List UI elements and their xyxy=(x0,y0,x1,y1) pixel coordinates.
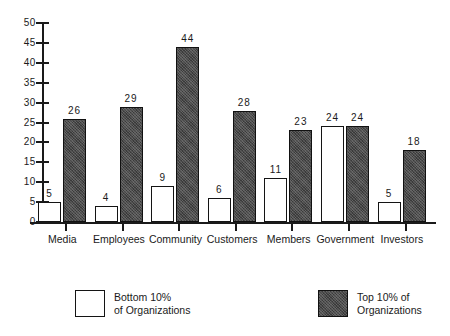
y-axis-tick xyxy=(36,141,49,143)
bar-value-label: 11 xyxy=(258,165,293,175)
bar-value-label: 6 xyxy=(202,185,237,195)
y-axis-tick-label: 45 xyxy=(10,38,36,48)
y-axis-tick xyxy=(36,181,49,183)
legend-label-top10-line1: Top 10% of xyxy=(357,291,422,304)
bar-top10 xyxy=(63,119,86,222)
legend-label-bottom10-line2: of Organizations xyxy=(114,304,190,317)
y-axis-tick xyxy=(36,22,49,24)
y-axis-tick-label: 50 xyxy=(10,18,36,28)
legend-label-top10-line2: Organizations xyxy=(357,304,422,317)
bar-value-label: 9 xyxy=(145,173,180,183)
y-axis-tick xyxy=(36,161,49,163)
chart-legend: Bottom 10% of Organizations Top 10% of O… xyxy=(0,276,450,336)
bar-value-label: 26 xyxy=(57,106,92,116)
y-axis-tick-label: 25 xyxy=(10,118,36,128)
bar-bottom10 xyxy=(321,126,344,222)
legend-label-top10: Top 10% of Organizations xyxy=(357,291,422,317)
bar-bottom10 xyxy=(151,186,174,222)
bar-bottom10 xyxy=(95,206,118,222)
legend-label-bottom10: Bottom 10% of Organizations xyxy=(114,291,190,317)
y-axis-tick xyxy=(36,82,49,84)
bar-bottom10 xyxy=(38,202,61,222)
legend-swatch-bottom10 xyxy=(75,290,105,317)
plot-area: 05101520253035404550 5264299446281123242… xyxy=(0,0,450,260)
bar-chart: 05101520253035404550 5264299446281123242… xyxy=(0,0,450,336)
bar-top10 xyxy=(346,126,369,222)
y-axis-tick xyxy=(36,62,49,64)
y-axis-tick xyxy=(36,122,49,124)
bar-value-label: 18 xyxy=(397,137,432,147)
y-axis-tick-label: 35 xyxy=(10,78,36,88)
bar-top10 xyxy=(233,111,256,222)
y-axis-tick-label: 15 xyxy=(10,157,36,167)
y-axis-tick-label: 30 xyxy=(10,98,36,108)
x-axis-tick xyxy=(65,222,67,231)
y-axis-tick-label: 10 xyxy=(10,177,36,187)
bar-bottom10 xyxy=(378,202,401,222)
y-axis-tick xyxy=(36,42,49,44)
y-axis-tick-label: 0 xyxy=(10,217,36,227)
bar-value-label: 44 xyxy=(170,34,205,44)
x-axis-label-investors: Investors xyxy=(368,233,437,245)
bar-value-label: 5 xyxy=(372,189,407,199)
bar-bottom10 xyxy=(264,178,287,222)
x-axis-tick xyxy=(348,222,350,231)
legend-item-top10: Top 10% of Organizations xyxy=(318,290,422,317)
y-axis-tick-label: 20 xyxy=(10,137,36,147)
legend-swatch-top10 xyxy=(318,290,348,317)
legend-item-bottom10: Bottom 10% of Organizations xyxy=(75,290,190,317)
bar-value-label: 29 xyxy=(114,94,149,104)
y-axis-tick xyxy=(36,102,49,104)
bar-bottom10 xyxy=(208,198,231,222)
y-axis-tick-label: 40 xyxy=(10,58,36,68)
bar-value-label: 4 xyxy=(89,193,124,203)
bar-value-label: 23 xyxy=(283,117,318,127)
x-axis-tick xyxy=(405,222,407,231)
bar-value-label: 5 xyxy=(32,189,67,199)
bar-value-label: 24 xyxy=(340,113,375,123)
legend-label-bottom10-line1: Bottom 10% xyxy=(114,291,190,304)
x-axis-tick xyxy=(291,222,293,231)
x-axis-line xyxy=(30,222,436,224)
x-axis-tick xyxy=(235,222,237,231)
bar-top10 xyxy=(403,150,426,222)
bar-top10 xyxy=(176,47,199,222)
bar-value-label: 28 xyxy=(227,98,262,108)
x-axis-tick xyxy=(122,222,124,231)
bar-top10 xyxy=(120,107,143,222)
x-axis-tick xyxy=(178,222,180,231)
bar-top10 xyxy=(289,130,312,222)
